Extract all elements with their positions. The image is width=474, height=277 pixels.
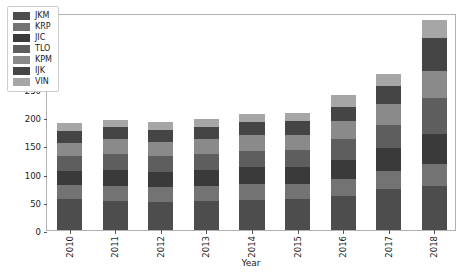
bar-segment-tlo	[103, 154, 128, 170]
legend-swatch-jkm	[13, 12, 30, 20]
bars-container	[47, 15, 455, 230]
bar-segment-krp	[376, 171, 401, 190]
bar-segment-jic	[422, 134, 447, 163]
legend-swatch-kpm	[13, 56, 30, 64]
bar-stack	[239, 114, 264, 230]
legend: JKMKRPJICTLOKPMIJKVIN	[7, 6, 59, 92]
bar-segment-kpm	[376, 104, 401, 125]
bar-segment-jic	[194, 170, 219, 186]
bar-segment-ijk	[194, 127, 219, 139]
bar-segment-tlo	[239, 151, 264, 168]
legend-label: KPM	[35, 56, 52, 64]
legend-swatch-tlo	[13, 45, 30, 53]
legend-swatch-krp	[13, 23, 30, 31]
bar-segment-krp	[103, 186, 128, 201]
x-axis-tick-label: 2017	[384, 236, 394, 258]
bar-segment-ijk	[422, 38, 447, 71]
bar-segment-tlo	[148, 156, 173, 172]
bar-segment-kpm	[422, 71, 447, 98]
x-axis-tick-mark	[115, 230, 116, 234]
y-axis-tick-mark	[44, 232, 48, 233]
bar-segment-tlo	[57, 156, 82, 171]
bar-segment-kpm	[194, 139, 219, 154]
bar-segment-jkm	[239, 200, 264, 230]
bar-stack	[285, 113, 310, 230]
bar-segment-tlo	[285, 150, 310, 167]
bar-segment-tlo	[194, 154, 219, 170]
bar-stack	[376, 74, 401, 230]
bar-segment-tlo	[422, 98, 447, 134]
legend-item: KRP	[13, 22, 52, 32]
bar-segment-vin	[148, 122, 173, 130]
bar-stack	[331, 95, 356, 230]
bar-segment-jkm	[194, 201, 219, 230]
x-axis-tick-label: 2011	[110, 236, 120, 258]
x-axis-tick-mark	[434, 230, 435, 234]
bar-segment-krp	[285, 184, 310, 199]
bar-stack	[422, 20, 447, 230]
bar-segment-jkm	[103, 201, 128, 230]
x-axis-tick-label: 2016	[338, 236, 348, 258]
figure: 0501001502002503003502010201120122013201…	[0, 0, 474, 277]
bar-segment-krp	[331, 179, 356, 196]
y-axis-tick-mark	[44, 204, 48, 205]
legend-swatch-jic	[13, 34, 30, 42]
bar-segment-kpm	[57, 143, 82, 156]
x-axis-tick-mark	[343, 230, 344, 234]
legend-item: TLO	[13, 44, 52, 54]
y-axis-tick-mark	[44, 119, 48, 120]
legend-label: VIN	[35, 78, 49, 86]
bar-segment-jkm	[57, 199, 82, 230]
bar-segment-kpm	[285, 135, 310, 150]
bar-segment-vin	[422, 20, 447, 38]
x-axis-tick-label: 2014	[247, 236, 257, 258]
bar-segment-jic	[376, 148, 401, 171]
bar-segment-vin	[331, 95, 356, 107]
bar-segment-ijk	[103, 127, 128, 139]
legend-item: KPM	[13, 55, 52, 65]
legend-swatch-vin	[13, 78, 30, 86]
legend-label: JKM	[35, 12, 50, 20]
bar-segment-ijk	[57, 131, 82, 142]
x-axis-tick-mark	[161, 230, 162, 234]
bar-segment-ijk	[285, 121, 310, 135]
bar-segment-jic	[331, 160, 356, 179]
x-axis-tick-mark	[252, 230, 253, 234]
bar-segment-krp	[57, 185, 82, 199]
bar-segment-vin	[376, 74, 401, 86]
bar-segment-jkm	[422, 186, 447, 230]
bar-segment-jkm	[285, 199, 310, 230]
bar-segment-jic	[103, 170, 128, 186]
x-axis-tick-mark	[298, 230, 299, 234]
legend-label: JIC	[35, 34, 45, 42]
legend-item: JIC	[13, 33, 52, 43]
legend-item: VIN	[13, 77, 52, 87]
bar-segment-jic	[148, 172, 173, 187]
legend-label: KRP	[35, 23, 51, 31]
legend-label: IJK	[35, 67, 45, 75]
x-axis-tick-label: 2013	[201, 236, 211, 258]
bar-stack	[103, 120, 128, 230]
y-axis-tick-mark	[44, 176, 48, 177]
x-axis-tick-mark	[389, 230, 390, 234]
bar-segment-kpm	[148, 142, 173, 156]
bar-segment-vin	[57, 123, 82, 131]
bar-segment-ijk	[331, 107, 356, 122]
x-axis-label: Year	[46, 258, 456, 268]
bar-segment-krp	[422, 164, 447, 187]
bar-segment-jic	[285, 167, 310, 184]
x-axis-tick-label: 2018	[429, 236, 439, 258]
bar-segment-jic	[239, 167, 264, 183]
bar-segment-ijk	[148, 130, 173, 142]
bar-segment-vin	[194, 119, 219, 127]
bar-segment-tlo	[331, 139, 356, 159]
bar-stack	[194, 119, 219, 230]
legend-item: JKM	[13, 11, 52, 21]
x-axis-tick-mark	[70, 230, 71, 234]
plot-area: 0501001502002503003502010201120122013201…	[46, 14, 456, 231]
bar-segment-vin	[285, 113, 310, 121]
bar-segment-ijk	[376, 86, 401, 103]
bar-segment-jkm	[331, 196, 356, 230]
bar-segment-krp	[148, 187, 173, 202]
x-axis-tick-mark	[206, 230, 207, 234]
